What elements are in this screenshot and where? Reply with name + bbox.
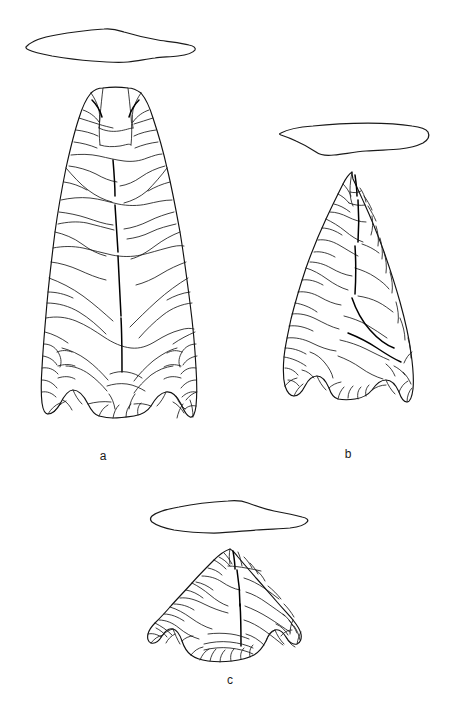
specimen-label-b: b (336, 447, 360, 461)
specimen-a-cross-section (26, 29, 195, 63)
specimen-label-c: c (218, 673, 242, 687)
artifact-illustration-svg (0, 0, 452, 719)
specimen-b-point (283, 172, 413, 402)
figure-plate: a b c (0, 0, 452, 719)
specimen-label-a: a (91, 449, 115, 463)
specimen-a-point (41, 87, 197, 418)
specimen-c-cross-section (151, 501, 308, 533)
specimen-c-point (148, 549, 302, 662)
specimen-b-cross-section (280, 123, 429, 155)
